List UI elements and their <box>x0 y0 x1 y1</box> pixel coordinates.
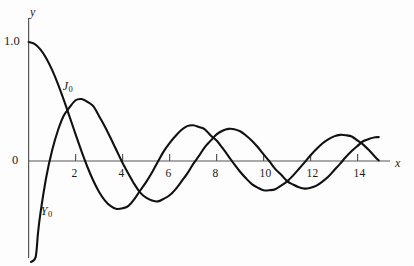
x-axis-title: x <box>395 157 400 169</box>
x-tick-label-8: 8 <box>213 168 219 180</box>
x-tick-label-6: 6 <box>166 168 172 180</box>
bessel-function-chart: 2468101214 y x 1.0 0 J0 Y0 <box>0 0 414 266</box>
y-tick-label-0: 0 <box>12 154 18 167</box>
series-label-subscript: 0 <box>69 84 73 94</box>
series-label-y0: Y0 <box>41 205 52 217</box>
series-group <box>29 42 379 262</box>
axes-group <box>28 18 390 258</box>
x-tick-label-12: 12 <box>307 168 319 180</box>
x-tick-label-14: 14 <box>354 168 366 180</box>
series-label-subscript: 0 <box>48 209 52 219</box>
y-tick-label-1.0: 1.0 <box>4 35 20 48</box>
series-label-text: Y <box>41 204 48 218</box>
curve-y0 <box>31 99 379 262</box>
series-label-text: J <box>63 79 68 93</box>
y-axis-title: y <box>30 6 35 18</box>
x-tick-label-4: 4 <box>119 168 125 180</box>
x-tick-label-10: 10 <box>260 168 272 180</box>
series-label-j0: J0 <box>63 80 73 92</box>
plot-area <box>0 0 414 266</box>
curve-j0 <box>29 42 379 209</box>
x-tick-label-2: 2 <box>72 168 78 180</box>
